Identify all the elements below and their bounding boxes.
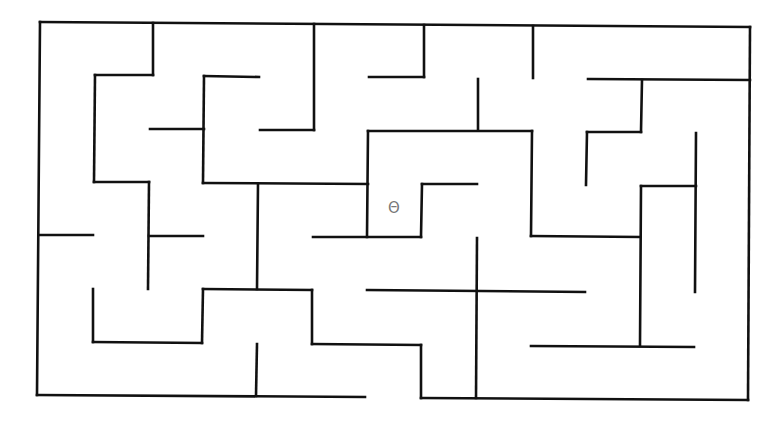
maze-wall [640,186,641,345]
maze-wall [37,395,365,397]
maze-wall [748,27,750,400]
maze-wall [695,133,696,292]
maze-wall [203,76,204,183]
maze-wall [367,131,368,237]
maze-wall [94,75,95,182]
maze-wall [93,342,202,343]
maze-wall [203,289,312,290]
maze-wall [531,236,640,237]
maze-wall [476,238,477,398]
maze-wall [203,183,368,184]
maze-wall [312,344,421,345]
maze-wall [204,76,259,77]
maze-wall [421,398,748,400]
maze-wall [531,346,694,347]
maze-wall [202,289,203,343]
maze-wall [531,131,532,236]
maze-wall [588,79,750,80]
maze-wall [641,80,642,132]
maze-wall [37,22,40,395]
maze-wall [421,184,422,237]
maze-wall [40,22,750,27]
maze-wall [586,132,587,185]
maze-wall [256,344,257,396]
player-marker-icon: Θ [388,201,400,216]
maze-wall [257,184,258,289]
